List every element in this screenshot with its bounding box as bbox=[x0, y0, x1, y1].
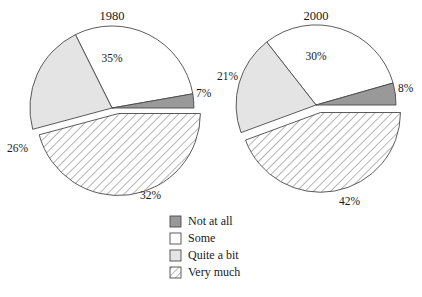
legend-item-quite-a-bit[interactable]: Quite a bit bbox=[170, 248, 239, 262]
pie-label-2000-very-much: 42% bbox=[339, 195, 361, 207]
pie-label-1980-not-at-all: 7% bbox=[196, 87, 212, 99]
pie-label-2000-not-at-all: 8% bbox=[398, 82, 414, 94]
legend-item-some[interactable]: Some bbox=[170, 231, 215, 245]
legend-label-quite-a-bit: Quite a bit bbox=[188, 248, 239, 262]
legend-item-not-at-all[interactable]: Not at all bbox=[170, 214, 233, 228]
legend-label-very-much: Very much bbox=[188, 265, 240, 279]
legend-swatch-very-much bbox=[170, 267, 181, 278]
legend-swatch-not-at-all bbox=[170, 216, 181, 227]
pie-label-2000-quite-a-bit: 21% bbox=[217, 70, 239, 82]
legend-label-not-at-all: Not at all bbox=[188, 214, 233, 228]
pie-label-1980-some: 35% bbox=[101, 52, 123, 64]
pie-chart-figure: 1980 35% 7% 26% 32% 2000 30% 8% 21% bbox=[0, 0, 422, 297]
pie-label-1980-quite-a-bit: 26% bbox=[7, 142, 29, 154]
legend-swatch-quite-a-bit bbox=[170, 250, 181, 261]
legend-item-very-much[interactable]: Very much bbox=[170, 265, 240, 279]
pie-label-2000-some: 30% bbox=[305, 50, 327, 62]
pie-label-1980-very-much: 32% bbox=[140, 189, 162, 201]
legend-label-some: Some bbox=[188, 231, 215, 245]
legend-swatch-some bbox=[170, 233, 181, 244]
pie-title-1980: 1980 bbox=[100, 9, 125, 23]
pie-title-2000: 2000 bbox=[304, 9, 329, 23]
